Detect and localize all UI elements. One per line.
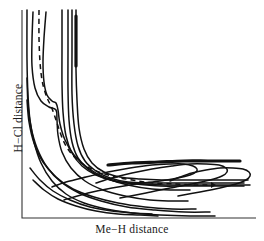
- contour-lines: [27, 10, 250, 216]
- x-axis-label: Me−H distance: [0, 223, 264, 235]
- contour-line: [32, 12, 188, 201]
- contour-line: [170, 168, 250, 196]
- contour-line: [76, 10, 248, 180]
- contour-line: [68, 10, 250, 185]
- contour-plot-canvas: [0, 0, 264, 241]
- y-axis-label: H−Cl distance: [12, 48, 24, 188]
- potential-energy-surface-figure: H−Cl distance Me−H distance: [0, 0, 264, 241]
- contour-line: [72, 10, 244, 183]
